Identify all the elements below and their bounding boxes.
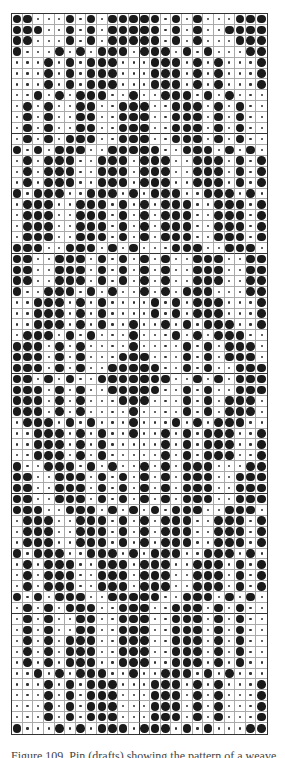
- empty-dot-icon: [186, 171, 188, 173]
- grid-cell: [161, 418, 172, 429]
- empty-dot-icon: [143, 705, 145, 707]
- filled-dot-icon: [172, 604, 181, 613]
- filled-dot-icon: [257, 375, 266, 384]
- grid-cell: [203, 145, 214, 156]
- grid-cell: [246, 167, 257, 178]
- grid-cell: [33, 418, 44, 429]
- grid-cell: [182, 472, 193, 483]
- filled-dot-icon: [204, 593, 213, 602]
- grid-cell: [214, 647, 225, 658]
- empty-dot-icon: [133, 258, 135, 260]
- empty-dot-icon: [164, 149, 166, 151]
- grid-cell: [23, 189, 34, 200]
- grid-cell: [33, 483, 44, 494]
- grid-cell: [23, 232, 34, 243]
- empty-dot-icon: [218, 356, 220, 358]
- empty-dot-icon: [122, 509, 124, 511]
- grid-cell: [86, 178, 97, 189]
- empty-dot-icon: [207, 661, 209, 663]
- grid-cell: [246, 156, 257, 167]
- grid-cell: [129, 396, 140, 407]
- filled-dot-icon: [44, 571, 53, 580]
- filled-dot-icon: [44, 418, 53, 427]
- grid-cell: [129, 712, 140, 723]
- empty-dot-icon: [101, 509, 103, 511]
- grid-cell: [12, 298, 23, 309]
- grid-cell: [140, 701, 151, 712]
- grid-cell: [86, 265, 97, 276]
- grid-cell: [33, 134, 44, 145]
- grid-cell: [12, 701, 23, 712]
- filled-dot-icon: [236, 396, 245, 405]
- grid-cell: [182, 647, 193, 658]
- grid-cell: [214, 79, 225, 90]
- grid-cell: [182, 232, 193, 243]
- filled-dot-icon: [257, 364, 266, 373]
- grid-cell: [33, 287, 44, 298]
- grid-cell: [44, 570, 55, 581]
- filled-dot-icon: [108, 80, 117, 89]
- grid-cell: [246, 690, 257, 701]
- empty-dot-icon: [249, 83, 251, 85]
- empty-dot-icon: [133, 498, 135, 500]
- filled-dot-icon: [204, 451, 213, 460]
- grid-cell: [150, 690, 161, 701]
- empty-dot-icon: [90, 301, 92, 303]
- grid-cell: [23, 450, 34, 461]
- grid-cell: [65, 363, 76, 374]
- grid-cell: [203, 25, 214, 36]
- grid-cell: [150, 625, 161, 636]
- grid-cell: [108, 603, 119, 614]
- empty-dot-icon: [228, 574, 230, 576]
- filled-dot-icon: [151, 691, 160, 700]
- empty-dot-icon: [79, 585, 81, 587]
- filled-dot-icon: [172, 647, 181, 656]
- grid-cell: [256, 461, 267, 472]
- grid-cell: [23, 658, 34, 669]
- grid-cell: [86, 385, 97, 396]
- empty-dot-icon: [186, 694, 188, 696]
- grid-cell: [55, 47, 66, 58]
- filled-dot-icon: [257, 495, 266, 504]
- grid-cell: [235, 58, 246, 69]
- filled-dot-icon: [44, 233, 53, 242]
- grid-cell: [193, 679, 204, 690]
- filled-dot-icon: [44, 636, 53, 645]
- filled-dot-icon: [34, 396, 43, 405]
- grid-cell: [108, 265, 119, 276]
- grid-cell: [33, 330, 44, 341]
- grid-cell: [86, 101, 97, 112]
- grid-cell: [161, 461, 172, 472]
- grid-cell: [76, 374, 87, 385]
- filled-dot-icon: [193, 702, 202, 711]
- grid-cell: [171, 276, 182, 287]
- empty-dot-icon: [122, 334, 124, 336]
- grid-cell: [182, 298, 193, 309]
- grid-cell: [33, 36, 44, 47]
- grid-cell: [12, 450, 23, 461]
- grid-cell: [140, 210, 151, 221]
- grid-cell: [97, 505, 108, 516]
- filled-dot-icon: [129, 244, 138, 253]
- filled-dot-icon: [225, 527, 234, 536]
- grid-cell: [256, 25, 267, 36]
- grid-cell: [12, 549, 23, 560]
- grid-cell: [161, 439, 172, 450]
- grid-cell: [235, 679, 246, 690]
- empty-dot-icon: [239, 61, 241, 63]
- grid-cell: [23, 156, 34, 167]
- filled-dot-icon: [214, 680, 223, 689]
- empty-dot-icon: [58, 607, 60, 609]
- grid-cell: [86, 79, 97, 90]
- grid-cell: [23, 210, 34, 221]
- filled-dot-icon: [257, 724, 266, 733]
- grid-cell: [161, 396, 172, 407]
- empty-dot-icon: [90, 574, 92, 576]
- grid-cell: [12, 658, 23, 669]
- filled-dot-icon: [129, 549, 138, 558]
- grid-cell: [256, 723, 267, 734]
- empty-dot-icon: [154, 443, 156, 445]
- filled-dot-icon: [257, 287, 266, 296]
- filled-dot-icon: [214, 418, 223, 427]
- filled-dot-icon: [129, 353, 138, 362]
